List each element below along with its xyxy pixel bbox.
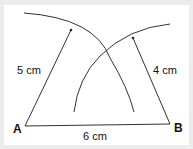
vertex-b-label: B [174,122,183,134]
diagram-frame: 5 cm 4 cm 6 cm A B [0,0,193,149]
radius-a-label: 5 cm [17,65,41,76]
radius-b-line [133,38,170,124]
arc-from-a [24,13,134,112]
radius-b-endpoint [132,37,135,40]
radius-a-endpoint [70,29,73,32]
radius-a-line [25,30,71,126]
vertex-a-label: A [13,123,22,135]
side-ab-label: 6 cm [83,131,107,142]
radius-b-label: 4 cm [153,65,177,76]
side-ab-line [25,124,170,126]
